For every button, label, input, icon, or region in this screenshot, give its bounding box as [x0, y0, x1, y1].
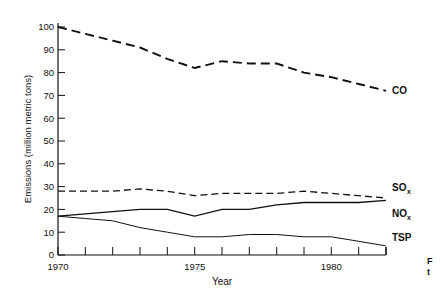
y-tick-labels: 0 10 20 30 40 50 60 70 80 90 100 — [38, 21, 54, 260]
y-tick-label: 30 — [43, 181, 54, 192]
series-label-sox: SO — [392, 182, 407, 193]
y-tick-label: 90 — [43, 44, 54, 55]
series-label-sox-group: SO x — [392, 182, 411, 195]
figure-caption-line-1: F — [427, 256, 440, 267]
series-label-co: CO — [392, 85, 407, 96]
emissions-line-chart-figure: 0 10 20 30 40 50 60 70 80 90 100 Emissio… — [0, 0, 440, 295]
x-tick-labels: 1970 1975 1980 — [47, 261, 341, 272]
y-tick-label: 100 — [38, 21, 54, 32]
series-label-sox-subscript: x — [407, 188, 411, 195]
y-tick-label: 80 — [43, 67, 54, 78]
series-line-co — [58, 27, 386, 91]
chart-canvas: 0 10 20 30 40 50 60 70 80 90 100 Emissio… — [0, 0, 440, 295]
figure-caption-line-2: t — [427, 267, 440, 278]
x-tick-label-1980: 1980 — [321, 261, 342, 272]
series-label-nox-group: NO x — [392, 208, 411, 221]
figure-caption-fragment: F t — [427, 256, 440, 290]
x-tick-label-1975: 1975 — [184, 261, 205, 272]
x-axis-title: Year — [212, 276, 233, 287]
y-tick-label: 20 — [43, 204, 54, 215]
y-tick-label: 0 — [49, 249, 54, 260]
series-line-nox — [58, 200, 386, 216]
y-tick-label: 10 — [43, 227, 54, 238]
y-tick-label: 40 — [43, 158, 54, 169]
series-label-nox: NO — [392, 208, 407, 219]
series-line-sox — [58, 189, 386, 198]
y-tick-marks — [58, 27, 65, 255]
y-axis-title: Emissions (million metric tons) — [22, 75, 33, 203]
x-tick-marks — [58, 247, 386, 255]
series-label-co-group: CO — [392, 85, 407, 96]
series-label-nox-subscript: x — [407, 214, 411, 221]
series-line-tsp — [58, 216, 386, 246]
y-tick-label: 60 — [43, 113, 54, 124]
y-tick-label: 50 — [43, 135, 54, 146]
y-tick-label: 70 — [43, 90, 54, 101]
series-label-tsp-group: TSP — [392, 232, 412, 243]
x-tick-label-1970: 1970 — [47, 261, 68, 272]
series-label-tsp: TSP — [392, 232, 412, 243]
